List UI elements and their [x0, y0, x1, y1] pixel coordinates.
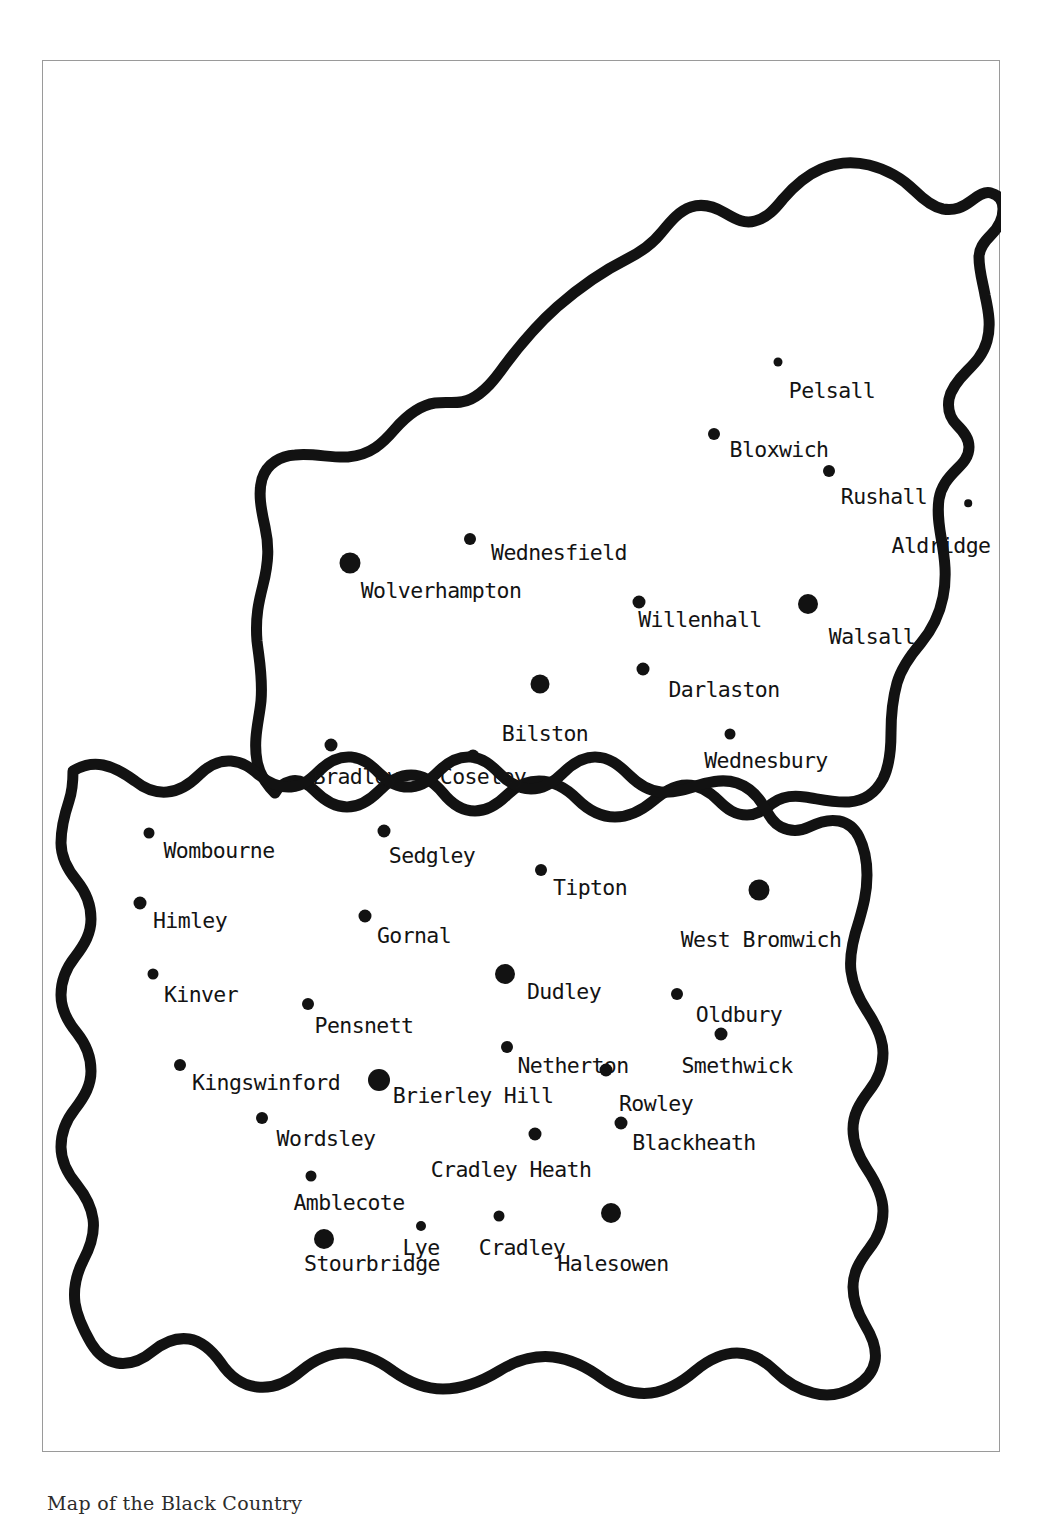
- city-label: Rowley: [619, 1093, 693, 1115]
- city-dot[interactable]: [340, 553, 361, 574]
- city-label: Bilston: [502, 723, 588, 745]
- city-label: Kinver: [164, 984, 238, 1006]
- city-label: Brierley Hill: [393, 1085, 553, 1107]
- city-dot[interactable]: [749, 880, 770, 901]
- city-label: Sedgley: [389, 845, 475, 867]
- city-label: Cradley: [479, 1237, 565, 1259]
- city-label: Wordsley: [277, 1128, 376, 1150]
- city-dot[interactable]: [494, 1211, 505, 1222]
- city-label: Bloxwich: [730, 439, 829, 461]
- city-label: Pensnett: [315, 1015, 414, 1037]
- city-dot[interactable]: [725, 729, 736, 740]
- city-dot[interactable]: [798, 594, 818, 614]
- city-label: Darlaston: [668, 679, 779, 701]
- city-label: Wednesbury: [704, 750, 827, 772]
- city-dot[interactable]: [774, 358, 783, 367]
- city-label: Stourbridge: [304, 1253, 440, 1275]
- city-dot[interactable]: [306, 1171, 317, 1182]
- city-label: Kingswinford: [192, 1072, 340, 1094]
- city-dot[interactable]: [495, 964, 515, 984]
- city-dot[interactable]: [416, 1221, 426, 1231]
- city-dot[interactable]: [529, 1128, 542, 1141]
- city-dot[interactable]: [601, 1203, 621, 1223]
- city-dot[interactable]: [256, 1112, 268, 1124]
- city-label: West Bromwich: [681, 929, 841, 951]
- city-label: Halesowen: [557, 1253, 668, 1275]
- figure-caption: Map of the Black Country: [47, 1492, 302, 1514]
- city-dot[interactable]: [378, 825, 391, 838]
- city-label: Aldridge: [892, 535, 991, 557]
- city-dot[interactable]: [531, 675, 550, 694]
- city-dot[interactable]: [302, 998, 314, 1010]
- city-label: Gornal: [377, 925, 451, 947]
- city-dot[interactable]: [964, 499, 972, 507]
- city-label: Cradley Heath: [431, 1159, 591, 1181]
- city-dot[interactable]: [174, 1059, 186, 1071]
- city-dot[interactable]: [314, 1229, 334, 1249]
- city-dot[interactable]: [368, 1069, 390, 1091]
- city-label: Himley: [153, 910, 227, 932]
- city-label: Oldbury: [696, 1004, 782, 1026]
- city-label: Dudley: [527, 981, 601, 1003]
- city-label: Wombourne: [163, 840, 274, 862]
- city-label: Rushall: [841, 486, 927, 508]
- city-label: Wolverhampton: [361, 580, 521, 602]
- city-label: Amblecote: [293, 1192, 404, 1214]
- city-label: Wednesfield: [491, 542, 627, 564]
- city-dot[interactable]: [715, 1028, 728, 1041]
- city-label: Blackheath: [632, 1132, 755, 1154]
- city-dot[interactable]: [671, 988, 683, 1000]
- city-dot[interactable]: [325, 739, 338, 752]
- city-dot[interactable]: [359, 910, 372, 923]
- city-dot[interactable]: [148, 969, 159, 980]
- city-dot[interactable]: [615, 1117, 628, 1130]
- city-dot[interactable]: [708, 428, 720, 440]
- city-dot[interactable]: [637, 663, 650, 676]
- city-label: Smethwick: [681, 1055, 792, 1077]
- city-label: Netherton: [517, 1055, 628, 1077]
- city-label: Willenhall: [638, 609, 761, 631]
- city-dot[interactable]: [501, 1041, 513, 1053]
- city-dot[interactable]: [464, 533, 476, 545]
- city-label: Walsall: [829, 626, 915, 648]
- city-dot[interactable]: [134, 897, 147, 910]
- city-dot[interactable]: [823, 465, 835, 477]
- map-frame: PelsallBloxwichRushallAldridgeWednesfiel…: [42, 60, 1000, 1452]
- city-dot[interactable]: [467, 750, 480, 763]
- city-label: Tipton: [553, 877, 627, 899]
- city-dot[interactable]: [535, 864, 547, 876]
- city-label: Coseley: [440, 766, 526, 788]
- city-label: Bradley: [313, 766, 399, 788]
- city-dot[interactable]: [144, 828, 155, 839]
- city-label: Pelsall: [789, 380, 875, 402]
